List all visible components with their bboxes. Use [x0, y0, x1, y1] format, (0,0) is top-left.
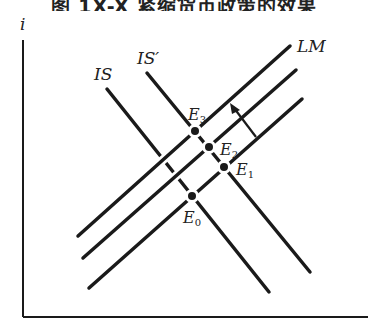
axes [23, 40, 368, 317]
label-e2: E2 [219, 140, 238, 160]
point-e0 [188, 192, 196, 200]
point-e1 [220, 163, 228, 171]
point-e2 [205, 143, 213, 151]
label-e0: E0 [182, 208, 201, 228]
is-prime-label: IS′ [136, 48, 159, 68]
y-axis-label: i [20, 14, 25, 34]
label-e1: E1 [235, 160, 254, 180]
islm-diagram: i IS IS′ LM E0 E1 E2 E3 [0, 0, 368, 336]
point-e3 [191, 127, 199, 135]
lm-label: LM [296, 36, 326, 56]
is-label: IS [93, 64, 112, 84]
label-e3: E3 [187, 105, 206, 125]
